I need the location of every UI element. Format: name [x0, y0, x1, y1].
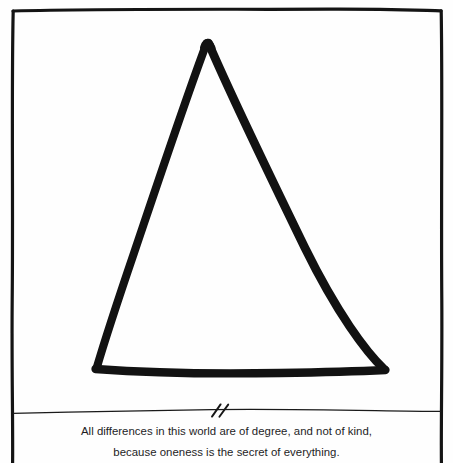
- page-background: [0, 0, 453, 463]
- frame-left-edge: [12, 11, 13, 463]
- figure-caption: All differences in this world are of deg…: [16, 421, 437, 462]
- caption-line-1: All differences in this world are of deg…: [16, 421, 437, 442]
- frame-top-edge: [13, 9, 441, 11]
- triangle-apex-cap: [204, 43, 212, 48]
- frame-right-edge: [441, 11, 442, 463]
- figure-illustration: [0, 0, 453, 463]
- figure-svg: [0, 0, 453, 463]
- triangle-base: [96, 369, 386, 373]
- caption-line-2: because oneness is the secret of everyth…: [16, 442, 437, 463]
- page-root: All differences in this world are of deg…: [0, 0, 453, 463]
